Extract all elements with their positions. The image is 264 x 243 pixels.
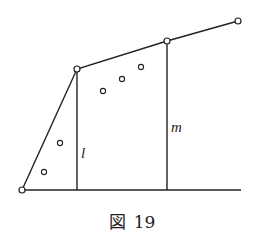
sample-point: [57, 140, 62, 145]
broken-line: [22, 21, 238, 190]
sample-point: [41, 169, 46, 174]
vertex-point: [19, 187, 25, 193]
label-m: m: [171, 119, 182, 135]
label-l: l: [81, 145, 85, 161]
diagram-canvas: l m: [0, 0, 264, 243]
sample-point: [119, 76, 124, 81]
vertex-point: [74, 66, 80, 72]
sample-point: [138, 64, 143, 69]
vertex-point: [164, 38, 170, 44]
caption-number: 19: [134, 212, 156, 232]
caption-prefix: 図: [109, 212, 126, 232]
figure-caption: 図19: [0, 208, 264, 233]
vertex-point: [235, 18, 241, 24]
sample-point: [100, 88, 105, 93]
